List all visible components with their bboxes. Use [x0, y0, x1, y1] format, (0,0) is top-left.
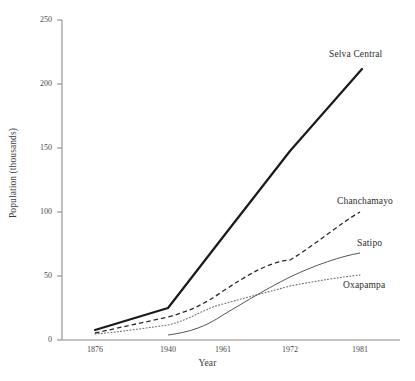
series-line-satipo [168, 253, 360, 335]
series-label-selva-central: Selva Central [329, 49, 382, 59]
chart-figure: 250 200 150 100 50 0 1876 1940 1961 1972… [0, 0, 415, 381]
series-label-satipo: Satipo [357, 238, 382, 248]
x-tick-label-1961: 1961 [193, 345, 253, 354]
x-axis-title: Year [0, 358, 415, 368]
series-label-chanchamayo: Chanchamayo [337, 196, 393, 206]
y-tick-label-50: 50 [12, 271, 52, 280]
x-tick-label-1876: 1876 [65, 345, 125, 354]
x-tick-label-1972: 1972 [260, 345, 320, 354]
y-tick-label-250: 250 [12, 15, 52, 24]
y-tick-label-100: 100 [12, 207, 52, 216]
y-tick-label-0: 0 [12, 335, 52, 344]
series-line-selva-central [95, 69, 362, 330]
y-tick-label-200: 200 [12, 79, 52, 88]
y-axis-title: Population (thousands) [8, 108, 18, 238]
series-line-oxapampa [95, 275, 360, 334]
x-tick-label-1940: 1940 [138, 345, 198, 354]
series-label-oxapampa: Oxapampa [343, 280, 385, 290]
y-tick-marks [57, 20, 62, 340]
y-tick-label-150: 150 [12, 143, 52, 152]
x-tick-label-1981: 1981 [330, 345, 390, 354]
